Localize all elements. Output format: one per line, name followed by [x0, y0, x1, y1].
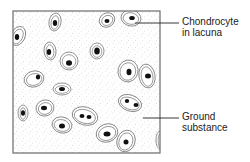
- label-chondrocyte-line1: Chondrocyte: [182, 16, 239, 27]
- nucleus: [36, 75, 40, 80]
- nucleus: [125, 99, 129, 103]
- label-chondrocyte-line2: in lacuna: [182, 27, 239, 38]
- nucleus: [66, 60, 72, 66]
- nucleus: [59, 87, 65, 91]
- nucleus: [104, 132, 111, 137]
- nucleus: [105, 19, 110, 23]
- nucleus: [134, 103, 139, 107]
- label-ground-substance: Ground substance: [182, 111, 228, 133]
- nucleus: [94, 48, 100, 55]
- nucleus: [53, 20, 57, 26]
- label-chondrocyte-in-lacuna: Chondrocyte in lacuna: [182, 16, 239, 38]
- nucleus: [47, 49, 51, 55]
- label-ground-line2: substance: [182, 122, 228, 133]
- nucleus: [21, 110, 25, 116]
- nucleus: [129, 16, 135, 20]
- nucleus: [124, 140, 129, 145]
- nucleus: [127, 69, 132, 75]
- nucleus: [145, 74, 151, 79]
- nucleus: [15, 34, 19, 40]
- nucleus: [41, 106, 47, 110]
- nucleus: [80, 114, 85, 118]
- label-ground-line1: Ground: [182, 111, 228, 122]
- nucleus: [87, 115, 92, 119]
- nucleus: [59, 124, 65, 129]
